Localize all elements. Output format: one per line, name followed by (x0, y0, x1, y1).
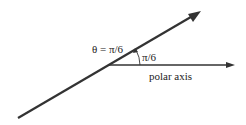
angle-label: π/6 (142, 52, 156, 63)
polar-angle-diagram: θ = π/6 π/6 polar axis (0, 0, 246, 125)
angle-arc (133, 48, 140, 65)
polar-axis-label: polar axis (149, 71, 192, 82)
diagram-graphics (0, 0, 246, 125)
ray-equation-label: θ = π/6 (92, 44, 123, 55)
polar-axis-line (108, 62, 235, 68)
